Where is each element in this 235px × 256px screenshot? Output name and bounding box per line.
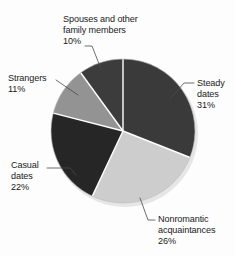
slice-label-percent: 26% — [158, 236, 215, 247]
slice-label-steady-dates: Steady dates 31% — [197, 78, 225, 112]
slice-label-casual-dates: Casual dates 22% — [11, 160, 39, 194]
slice-label-percent: 31% — [197, 100, 225, 111]
slice-label-line: family members — [63, 25, 138, 36]
slice-label-line: acquaintances — [158, 225, 215, 236]
slice-label-line: Steady — [197, 78, 225, 89]
slice-label-line: dates — [11, 171, 39, 182]
slice-label-line: Nonromantic — [158, 214, 215, 225]
slice-label-percent: 11% — [8, 84, 47, 95]
slice-label-spouses-family: Spouses and other family members 10% — [63, 14, 138, 48]
slice-label-percent: 22% — [11, 182, 39, 193]
slice-label-line: Spouses and other — [63, 14, 138, 25]
slice-label-nonromantic-acquaintances: Nonromantic acquaintances 26% — [158, 214, 215, 248]
slice-label-percent: 10% — [63, 36, 138, 47]
slice-label-strangers: Strangers 11% — [8, 73, 47, 95]
slice-label-line: dates — [197, 89, 225, 100]
pie-chart-figure: Spouses and other family members 10% Str… — [0, 0, 235, 256]
slice-label-line: Casual — [11, 160, 39, 171]
slice-label-line: Strangers — [8, 73, 47, 84]
